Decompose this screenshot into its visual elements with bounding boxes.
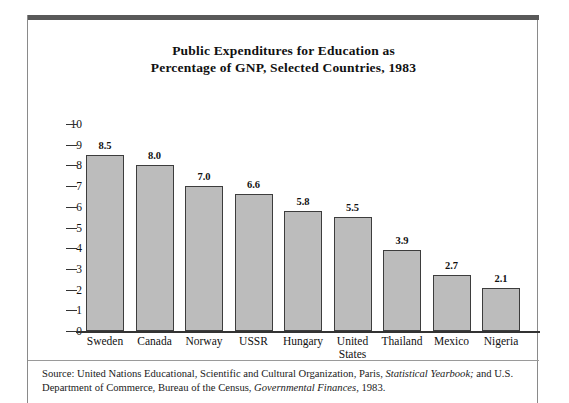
y-axis-tick-mark	[66, 165, 77, 166]
y-axis-tick-mark	[66, 248, 77, 249]
bar	[185, 186, 223, 331]
bar-value-label: 5.5	[334, 202, 372, 213]
x-axis-category-label: Thailand	[377, 335, 427, 348]
source-note: Source: United Nations Educational, Scie…	[42, 367, 527, 394]
y-axis-tick-mark	[66, 207, 77, 208]
bar-value-label: 6.6	[235, 179, 273, 190]
bar	[136, 165, 174, 331]
source-text-suffix: 1983.	[359, 382, 385, 393]
y-axis-tick-mark	[66, 124, 77, 125]
x-axis-category-label: Nigeria	[476, 335, 526, 348]
source-divider	[28, 360, 539, 361]
y-axis-tick-mark	[66, 269, 77, 270]
y-axis-tick-2: 2	[42, 283, 82, 297]
x-axis-category-label: Hungary	[278, 335, 328, 348]
bar-group: 8.0Canada	[136, 15, 174, 345]
bar-group: 6.6USSR	[235, 15, 273, 345]
bar-value-label: 3.9	[383, 235, 421, 246]
bar-value-label: 2.1	[482, 273, 520, 284]
bar	[433, 275, 471, 331]
y-axis-tick-8: 8	[42, 158, 82, 172]
bar	[235, 194, 273, 331]
figure-frame: Public Expenditures for Education as Per…	[27, 15, 538, 403]
y-axis-tick-6: 6	[42, 200, 82, 214]
bar-value-label: 7.0	[185, 171, 223, 182]
bar-group: 2.7Mexico	[433, 15, 471, 345]
x-axis-category-label: Norway	[179, 335, 229, 348]
bar-group: 5.8Hungary	[284, 15, 322, 345]
bar-group: 3.9Thailand	[383, 15, 421, 345]
y-axis-tick-4: 4	[42, 241, 82, 255]
source-text-prefix: Source: United Nations Educational, Scie…	[42, 368, 385, 379]
bar-value-label: 2.7	[433, 260, 471, 271]
x-axis-category-label: Sweden	[80, 335, 130, 348]
bar-group: 8.5Sweden	[86, 15, 124, 345]
bar-group: 7.0Norway	[185, 15, 223, 345]
bar-value-label: 5.8	[284, 196, 322, 207]
bar	[86, 155, 124, 331]
source-italic-title-2: Governmental Finances,	[254, 382, 359, 393]
x-axis-category-label: United States	[328, 335, 378, 361]
y-axis-tick-mark	[66, 310, 77, 311]
bar-value-label: 8.0	[136, 150, 174, 161]
bar-value-label: 8.5	[86, 140, 124, 151]
y-axis-tick-9: 9	[42, 138, 82, 152]
y-axis-tick-5: 5	[42, 221, 82, 235]
source-italic-title-1: Statistical Yearbook;	[385, 368, 473, 379]
y-axis-tick-1: 1	[42, 303, 82, 317]
x-axis-category-label: USSR	[229, 335, 279, 348]
y-axis-tick-3: 3	[42, 262, 82, 276]
y-axis-tick-10: 10	[42, 117, 82, 131]
x-axis-category-label: Mexico	[427, 335, 477, 348]
y-axis-tick-mark	[66, 186, 77, 187]
bar	[383, 250, 421, 331]
bar	[284, 211, 322, 331]
bar-group: 5.5United States	[334, 15, 372, 345]
bar	[482, 288, 520, 331]
y-axis-tick-mark	[66, 228, 77, 229]
y-axis-tick-7: 7	[42, 179, 82, 193]
bar-chart-plot-area: 012345678910 8.5Sweden8.0Canada7.0Norway…	[28, 15, 539, 345]
y-axis-tick-mark	[66, 145, 77, 146]
x-axis-category-label: Canada	[130, 335, 180, 348]
y-axis-tick-mark	[66, 290, 77, 291]
bar	[334, 217, 372, 331]
bar-group: 2.1Nigeria	[482, 15, 520, 345]
